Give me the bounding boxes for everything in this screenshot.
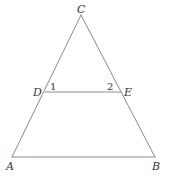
label-vertex-b: B bbox=[151, 160, 160, 173]
triangle-diagram: C D E A B 1 2 bbox=[0, 0, 170, 184]
label-vertex-a: A bbox=[5, 160, 14, 173]
side-bc bbox=[81, 15, 155, 157]
side-ac bbox=[12, 15, 81, 157]
angle-2-label: 2 bbox=[107, 81, 113, 92]
label-vertex-c: C bbox=[77, 3, 86, 16]
label-point-e: E bbox=[123, 86, 132, 99]
label-point-d: D bbox=[32, 86, 42, 99]
angle-1-label: 1 bbox=[50, 81, 56, 92]
